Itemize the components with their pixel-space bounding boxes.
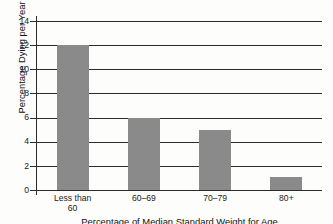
y-tick-label-6: 6 xyxy=(7,113,29,122)
gridline-0 xyxy=(37,190,322,191)
y-tick-mark-8 xyxy=(30,93,37,94)
y-tick-mark-0 xyxy=(30,190,37,191)
plot-area xyxy=(37,21,322,190)
y-tick-label-8: 8 xyxy=(7,89,29,98)
bar xyxy=(128,118,160,190)
y-tick-label-4: 4 xyxy=(7,137,29,146)
x-category-label-line: 60–69 xyxy=(104,193,184,203)
x-category-label-line: 80+ xyxy=(246,193,326,203)
y-tick-mark-12 xyxy=(30,45,37,46)
x-category-label: 70–79 xyxy=(175,193,255,203)
y-tick-label-14: 14 xyxy=(7,17,29,26)
y-tick-mark-14 xyxy=(30,21,37,22)
y-tick-mark-2 xyxy=(30,166,37,167)
y-tick-label-10: 10 xyxy=(7,65,29,74)
gridline-14 xyxy=(37,21,322,22)
bar xyxy=(57,45,89,190)
y-tick-label-0: 0 xyxy=(7,186,29,195)
x-category-label: Less than60 xyxy=(33,193,113,213)
y-tick-label-12: 12 xyxy=(7,41,29,50)
y-tick-mark-6 xyxy=(30,118,37,119)
x-category-label-line: 70–79 xyxy=(175,193,255,203)
y-tick-mark-4 xyxy=(30,142,37,143)
x-axis-title: Percentage of Median Standard Weight for… xyxy=(37,216,322,224)
y-axis-tick-labels: 02468101214 xyxy=(5,0,29,224)
bar xyxy=(270,177,302,190)
y-tick-mark-10 xyxy=(30,69,37,70)
bar-chart-figure: Percentage Dying per Year 02468101214 Le… xyxy=(0,0,333,224)
y-tick-label-2: 2 xyxy=(7,162,29,171)
bar xyxy=(199,130,231,190)
x-category-label-line: 60 xyxy=(33,203,113,213)
x-category-label: 60–69 xyxy=(104,193,184,203)
x-category-label: 80+ xyxy=(246,193,326,203)
x-category-label-line: Less than xyxy=(33,193,113,203)
